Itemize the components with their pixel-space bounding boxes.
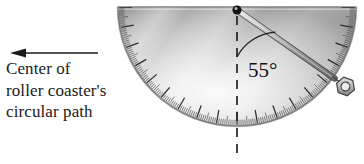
- caption-line-3: circular path: [6, 101, 156, 123]
- arrow-head: [10, 48, 26, 57]
- caption-line-1: Center of: [6, 58, 156, 80]
- angle-label: 55°: [248, 58, 277, 82]
- caption-line-2: roller coaster's: [6, 80, 156, 102]
- caption-block: Center of roller coaster's circular path: [6, 58, 156, 123]
- figure-canvas: 55° Center of roller coaster's circular …: [0, 0, 364, 164]
- pivot-highlight: [235, 7, 238, 10]
- pivot-dot: [232, 5, 241, 14]
- pivot-point: [232, 5, 241, 14]
- left-arrow-icon: [10, 48, 98, 57]
